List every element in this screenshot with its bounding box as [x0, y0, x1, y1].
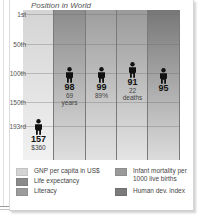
person-icon — [97, 67, 106, 83]
legend-label: Literacy — [34, 187, 57, 195]
y-tick: 150th — [1, 99, 29, 106]
gridline — [20, 14, 180, 15]
metric-unit: deaths — [117, 94, 148, 101]
rank-marker-infant-mortality: 91 22 deaths — [117, 62, 148, 101]
chart-title: Position in World — [23, 1, 191, 10]
metric-value: 89% — [86, 92, 117, 99]
y-tick: 100th — [1, 70, 29, 77]
legend-item-literacy: Literacy — [16, 187, 57, 196]
rank-value: 91 — [117, 78, 148, 87]
legend-label: GNP per capita in US$ — [34, 167, 100, 175]
person-icon — [34, 119, 43, 135]
y-tick: 50th — [1, 41, 29, 48]
rank-marker-human-dev-index: 95 — [148, 68, 179, 93]
y-tick: 1st — [1, 11, 29, 18]
metric-value: $360 — [23, 144, 54, 151]
person-icon — [159, 68, 168, 84]
chart-legend: GNP per capita in US$ Life expectancy Li… — [16, 167, 191, 207]
legend-swatch — [16, 188, 28, 196]
rank-value: 99 — [86, 83, 117, 92]
legend-label: Human dev. index — [133, 187, 185, 195]
legend-swatch — [115, 188, 127, 196]
gridline — [20, 44, 180, 45]
metric-value: 22 — [117, 87, 148, 94]
gridline — [20, 102, 180, 103]
rank-value: 98 — [54, 83, 85, 92]
person-icon — [65, 67, 74, 83]
legend-item-infant-mortality: Infant mortality per 1000 live births — [115, 167, 187, 183]
legend-item-life-expectancy: Life expectancy — [16, 177, 79, 186]
metric-unit: years — [54, 99, 85, 106]
legend-item-human-dev-index: Human dev. index — [115, 187, 185, 196]
legend-label: Infant mortality per 1000 live births — [133, 167, 187, 183]
chart-plot-area: 1st 50th 100th 150th 193rd 157 $360 98 6… — [23, 10, 180, 160]
legend-item-gnp: GNP per capita in US$ — [16, 167, 100, 176]
metric-value: 69 — [54, 92, 85, 99]
rank-marker-gnp: 157 $360 — [23, 119, 54, 151]
legend-swatch — [115, 168, 127, 176]
legend-swatch — [16, 178, 28, 186]
rank-marker-literacy: 99 89% — [86, 67, 117, 99]
legend-label: Life expectancy — [34, 177, 79, 185]
rank-value: 157 — [23, 135, 54, 144]
legend-swatch — [16, 168, 28, 176]
rank-marker-life-expectancy: 98 69 years — [54, 67, 85, 106]
rank-value: 95 — [148, 84, 179, 93]
person-icon — [128, 62, 137, 78]
